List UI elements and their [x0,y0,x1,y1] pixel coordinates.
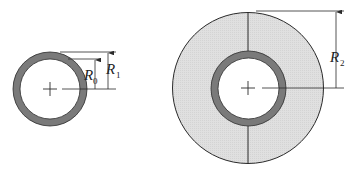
svg-text:R: R [329,49,339,65]
svg-text:1: 1 [116,70,121,80]
svg-text:0: 0 [93,76,98,86]
label-r1: R 1 [105,61,121,80]
pipe-insulation-diagram: R 0 R 1 R 2 [0,0,357,171]
center-cross-icon [43,82,57,96]
label-r2: R 2 [329,49,345,68]
svg-text:2: 2 [340,58,345,68]
svg-text:R: R [105,61,115,77]
insulated-pipe: R 2 [173,11,345,164]
svg-text:R: R [83,67,93,83]
bare-pipe: R 0 R 1 [13,52,121,126]
